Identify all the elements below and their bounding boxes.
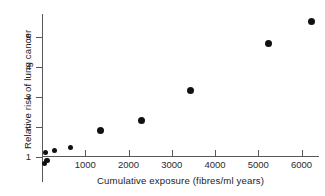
x-tick-label-1000: 1000: [68, 160, 102, 170]
scatter-plot-area: 12345 100020003000400050006000 Cumulativ…: [0, 0, 325, 196]
data-point: [97, 127, 104, 134]
x-tick-4000: [215, 150, 216, 157]
data-point: [265, 40, 272, 47]
x-tick-label-5000: 5000: [241, 160, 275, 170]
data-point: [52, 148, 58, 154]
x-tick-6000: [302, 150, 303, 157]
x-tick-2000: [129, 150, 130, 157]
data-point: [44, 158, 50, 164]
data-point: [43, 150, 49, 156]
y-tick-1: [36, 157, 43, 158]
y-tick-4: [36, 67, 43, 68]
data-point: [308, 18, 315, 25]
data-point: [138, 117, 145, 124]
y-tick-2: [36, 127, 43, 128]
chart-figure: 12345 100020003000400050006000 Cumulativ…: [0, 0, 325, 196]
x-tick-label-2000: 2000: [112, 160, 146, 170]
data-point: [187, 87, 194, 94]
x-axis-title: Cumulative exposure (fibres/ml years): [42, 176, 319, 187]
x-axis-line: [42, 156, 319, 157]
data-point: [68, 145, 74, 151]
x-tick-5000: [258, 150, 259, 157]
y-axis-title: Relative risk of lung cancer: [23, 9, 34, 169]
y-tick-5: [36, 37, 43, 38]
x-tick-label-4000: 4000: [198, 160, 232, 170]
y-tick-3: [36, 97, 43, 98]
x-tick-label-3000: 3000: [155, 160, 189, 170]
x-tick-1000: [85, 150, 86, 157]
x-tick-3000: [172, 150, 173, 157]
x-tick-label-6000: 6000: [285, 160, 319, 170]
